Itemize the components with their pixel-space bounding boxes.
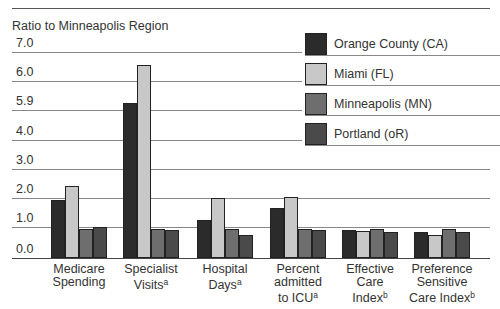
legend-swatch: [305, 63, 327, 85]
y-tick-label: 6.0: [16, 65, 33, 79]
legend-rule: [305, 145, 500, 146]
bar: [211, 198, 225, 258]
y-tick-label: 1.0: [16, 211, 33, 225]
category-label: EffectiveCareIndexb: [335, 263, 405, 305]
bar: [93, 227, 107, 258]
gridline: [12, 227, 490, 228]
legend-swatch: [305, 33, 327, 55]
legend-label: Orange County (CA): [334, 37, 448, 51]
bar: [342, 230, 356, 258]
top-rule: [12, 8, 490, 9]
bar: [312, 230, 326, 258]
bar: [298, 229, 312, 258]
bar: [284, 197, 298, 258]
gridline: [12, 52, 302, 53]
bar: [384, 232, 398, 258]
y-tick-label: 7.0: [16, 36, 33, 50]
y-tick-label: 0.0: [16, 242, 33, 256]
bar: [51, 200, 65, 258]
bar: [414, 232, 428, 258]
bar: [165, 230, 179, 258]
category-label: Percentadmittedto ICUa: [263, 263, 333, 305]
y-tick-label: 5.9: [16, 94, 33, 108]
bar: [370, 229, 384, 258]
bar: [79, 229, 93, 258]
bar: [137, 65, 151, 258]
category-label: HospitalDaysa: [190, 263, 260, 292]
category-label: SpecialistVisitsa: [116, 263, 186, 292]
legend-label: Portland (oR): [334, 127, 408, 141]
y-tick-label: 2.0: [16, 182, 33, 196]
y-tick-label: 4.0: [16, 124, 33, 138]
bar: [356, 231, 370, 258]
gridline: [12, 198, 490, 199]
category-label: MedicareSpending: [44, 263, 114, 289]
bar: [428, 235, 442, 258]
bar: [442, 229, 456, 258]
bar: [123, 103, 137, 258]
bar: [65, 186, 79, 258]
bar: [239, 235, 253, 258]
bar: [270, 208, 284, 258]
legend-rule: [305, 115, 500, 116]
bar: [456, 232, 470, 258]
bar: [197, 220, 211, 258]
bar: [151, 229, 165, 258]
legend-swatch: [305, 93, 327, 115]
gridline: [12, 140, 302, 141]
legend-label: Miami (FL): [334, 67, 394, 81]
category-label: PreferenceSensitiveCare Indexb: [407, 263, 477, 305]
legend-label: Minneapolis (MN): [334, 97, 432, 111]
x-axis-baseline: [12, 258, 490, 259]
bar: [225, 229, 239, 258]
legend-rule: [305, 85, 500, 86]
y-axis-title: Ratio to Minneapolis Region: [12, 19, 168, 33]
gridline: [12, 110, 302, 111]
gridline: [12, 169, 490, 170]
gridline: [12, 81, 302, 82]
legend-swatch: [305, 123, 327, 145]
legend-rule: [305, 55, 500, 56]
y-tick-label: 3.0: [16, 153, 33, 167]
